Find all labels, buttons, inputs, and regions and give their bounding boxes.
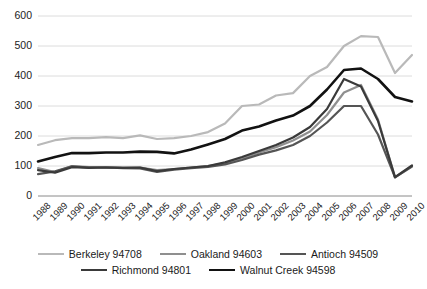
y-axis-tick-label: 300	[2, 99, 32, 111]
legend-label: Richmond 94801	[112, 264, 191, 276]
legend-label: Berkeley 94708	[69, 248, 142, 260]
y-axis-tick-label: 400	[2, 69, 32, 81]
legend-label: Oakland 94603	[191, 248, 262, 260]
legend-swatch-line-icon	[81, 269, 107, 271]
y-axis-tick-label: 0	[2, 189, 32, 201]
y-axis-tick-label: 100	[2, 159, 32, 171]
legend-swatch-line-icon	[160, 253, 186, 255]
y-axis-tick-label: 500	[2, 39, 32, 51]
chart-legend: Berkeley 94708Oakland 94603Antioch 94509…	[0, 246, 416, 278]
plot-canvas	[0, 0, 416, 205]
series-line-0	[38, 36, 412, 145]
legend-item[interactable]: Walnut Creek 94598	[209, 264, 335, 276]
legend-swatch-line-icon	[280, 253, 306, 255]
legend-item[interactable]: Antioch 94509	[280, 248, 378, 260]
y-axis-tick-label: 200	[2, 129, 32, 141]
legend-item[interactable]: Richmond 94801	[81, 264, 191, 276]
legend-swatch-line-icon	[209, 269, 235, 271]
series-line-4	[38, 69, 412, 162]
legend-item[interactable]: Berkeley 94708	[38, 248, 142, 260]
plot-area: 0100200300400500600	[0, 0, 416, 205]
y-axis-tick-label: 600	[2, 9, 32, 21]
legend-row-bottom: Richmond 94801Walnut Creek 94598	[0, 262, 416, 278]
legend-label: Walnut Creek 94598	[240, 264, 335, 276]
legend-label: Antioch 94509	[311, 248, 378, 260]
series-line-3	[38, 79, 412, 177]
legend-row-top: Berkeley 94708Oakland 94603Antioch 94509	[0, 246, 416, 262]
legend-swatch-line-icon	[38, 253, 64, 255]
legend-item[interactable]: Oakland 94603	[160, 248, 262, 260]
